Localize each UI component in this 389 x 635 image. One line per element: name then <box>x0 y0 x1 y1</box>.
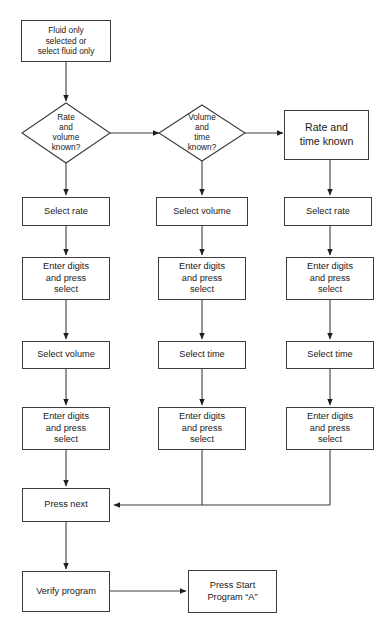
node-col1-enter-digits-1-label: Enter digits and press select <box>41 261 91 296</box>
node-col2-enter-digits-2-label: Enter digits and press select <box>177 411 227 446</box>
node-rate-time-known[interactable]: Rate and time known <box>284 110 369 160</box>
node-rate-time-known-label: Rate and time known <box>298 121 356 148</box>
node-col3-enter-digits-2[interactable]: Enter digits and press select <box>286 407 374 450</box>
node-col2-select-volume-label: Select volume <box>171 206 233 218</box>
node-col2-select-time-label: Select time <box>177 349 226 361</box>
node-col2-enter-digits-1[interactable]: Enter digits and press select <box>158 257 246 300</box>
node-start-label: Fluid only selected or select fluid only <box>36 25 97 57</box>
node-start[interactable]: Fluid only selected or select fluid only <box>21 20 111 62</box>
node-col1-enter-digits-1[interactable]: Enter digits and press select <box>22 257 110 300</box>
node-press-next[interactable]: Press next <box>22 488 110 522</box>
flowchart-canvas: Fluid only selected or select fluid only… <box>0 0 389 635</box>
node-press-start-program[interactable]: Press Start Program “A” <box>188 570 277 613</box>
node-col2-enter-digits-2[interactable]: Enter digits and press select <box>158 407 246 450</box>
node-col3-enter-digits-1[interactable]: Enter digits and press select <box>286 257 374 300</box>
node-col3-select-time[interactable]: Select time <box>286 341 374 369</box>
node-col3-enter-digits-2-label: Enter digits and press select <box>305 411 355 446</box>
node-col2-enter-digits-1-label: Enter digits and press select <box>177 261 227 296</box>
decision1-shape <box>22 103 110 163</box>
node-col1-enter-digits-2[interactable]: Enter digits and press select <box>22 407 110 450</box>
node-col1-select-volume[interactable]: Select volume <box>22 341 110 369</box>
decision2-shape <box>159 105 245 161</box>
node-verify-program-label: Verify program <box>34 586 98 598</box>
node-col3-select-rate[interactable]: Select rate <box>284 197 372 226</box>
connector-layer <box>0 0 389 635</box>
node-col3-select-rate-label: Select rate <box>304 206 352 218</box>
node-col1-enter-digits-2-label: Enter digits and press select <box>41 411 91 446</box>
node-col2-select-volume[interactable]: Select volume <box>156 197 248 226</box>
node-col3-select-time-label: Select time <box>305 349 354 361</box>
node-col3-enter-digits-1-label: Enter digits and press select <box>305 261 355 296</box>
node-col1-select-volume-label: Select volume <box>35 349 97 361</box>
node-verify-program[interactable]: Verify program <box>22 571 110 612</box>
node-press-next-label: Press next <box>42 499 89 511</box>
node-col2-select-time[interactable]: Select time <box>158 341 246 369</box>
node-press-start-program-label: Press Start Program “A” <box>205 580 259 604</box>
node-col1-select-rate-label: Select rate <box>42 206 90 218</box>
node-col1-select-rate[interactable]: Select rate <box>22 197 110 226</box>
